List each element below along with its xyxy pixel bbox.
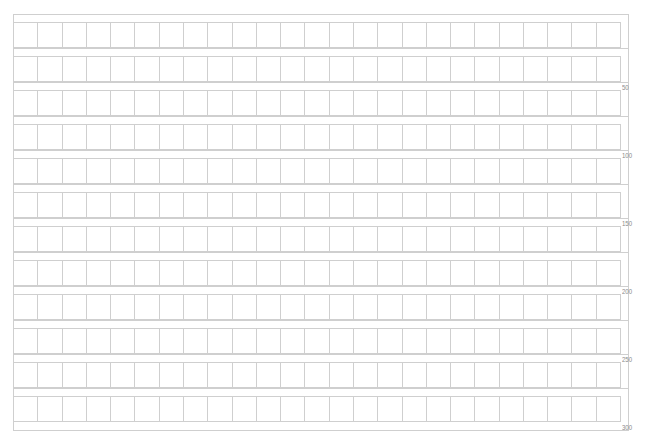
manuscript-cell [403, 227, 427, 251]
manuscript-cell [281, 91, 305, 115]
manuscript-cell [500, 193, 524, 217]
manuscript-cell [13, 227, 38, 251]
manuscript-cell [427, 261, 451, 285]
manuscript-cell [38, 227, 62, 251]
manuscript-cell [13, 295, 38, 319]
manuscript-cell [160, 397, 184, 421]
manuscript-cell [233, 23, 257, 47]
manuscript-cell [63, 227, 87, 251]
manuscript-cell [354, 261, 378, 285]
row-cells [13, 362, 621, 388]
manuscript-cell [281, 23, 305, 47]
manuscript-cell [305, 193, 329, 217]
manuscript-cell [160, 227, 184, 251]
manuscript-cell [257, 363, 281, 387]
manuscript-cell [354, 295, 378, 319]
manuscript-cell [13, 57, 38, 81]
row-gap [13, 116, 629, 124]
manuscript-cell [524, 363, 548, 387]
manuscript-cell [500, 363, 524, 387]
manuscript-cell [427, 23, 451, 47]
manuscript-cell [378, 295, 402, 319]
manuscript-cell [354, 159, 378, 183]
manuscript-cell [403, 193, 427, 217]
manuscript-cell [305, 363, 329, 387]
manuscript-cell [87, 125, 111, 149]
manuscript-cell [572, 193, 596, 217]
manuscript-cell [572, 57, 596, 81]
manuscript-cell [451, 227, 475, 251]
manuscript-cell [184, 193, 208, 217]
manuscript-row [13, 252, 629, 286]
count-label-250: 250 [622, 356, 632, 364]
manuscript-cell [160, 261, 184, 285]
manuscript-cell [378, 125, 402, 149]
manuscript-cell [330, 397, 354, 421]
manuscript-cell [475, 295, 499, 319]
manuscript-cell [524, 397, 548, 421]
manuscript-cell [548, 329, 572, 353]
manuscript-cell [330, 23, 354, 47]
manuscript-cell [572, 23, 596, 47]
manuscript-cell [38, 295, 62, 319]
manuscript-cell [572, 363, 596, 387]
manuscript-cell [233, 193, 257, 217]
manuscript-cell [500, 23, 524, 47]
manuscript-cell [524, 125, 548, 149]
manuscript-cell [38, 57, 62, 81]
manuscript-cell [548, 261, 572, 285]
manuscript-cell [524, 57, 548, 81]
manuscript-cell [572, 397, 596, 421]
manuscript-cell [305, 91, 329, 115]
manuscript-cell [135, 295, 159, 319]
manuscript-cell [475, 193, 499, 217]
manuscript-cell [63, 193, 87, 217]
manuscript-cell [13, 125, 38, 149]
row-cells [13, 22, 621, 48]
row-gap [13, 218, 629, 226]
manuscript-cell [378, 159, 402, 183]
row-gap [13, 388, 629, 396]
manuscript-cell [403, 125, 427, 149]
manuscript-cell [111, 125, 135, 149]
manuscript-cell [572, 91, 596, 115]
manuscript-cell [378, 261, 402, 285]
manuscript-cell [524, 23, 548, 47]
row-gap [13, 252, 629, 260]
manuscript-cell [13, 159, 38, 183]
manuscript-cell [111, 363, 135, 387]
manuscript-cell [257, 125, 281, 149]
manuscript-cell [87, 227, 111, 251]
manuscript-cell [208, 125, 232, 149]
manuscript-cell [451, 91, 475, 115]
manuscript-row [13, 150, 629, 184]
manuscript-cell [524, 227, 548, 251]
count-label-200: 200 [622, 288, 632, 296]
manuscript-cell [305, 125, 329, 149]
manuscript-cell [13, 193, 38, 217]
manuscript-cell [378, 57, 402, 81]
manuscript-cell [111, 57, 135, 81]
manuscript-cell [208, 261, 232, 285]
manuscript-cell [475, 397, 499, 421]
manuscript-cell [281, 363, 305, 387]
manuscript-cell [208, 329, 232, 353]
manuscript-cell [13, 261, 38, 285]
manuscript-cell [572, 159, 596, 183]
manuscript-cell [305, 295, 329, 319]
manuscript-cell [281, 57, 305, 81]
manuscript-cell [160, 91, 184, 115]
manuscript-cell [111, 91, 135, 115]
manuscript-cell [38, 329, 62, 353]
manuscript-cell [160, 329, 184, 353]
manuscript-cell [257, 57, 281, 81]
manuscript-cell [597, 329, 621, 353]
manuscript-row [13, 286, 629, 320]
manuscript-cell [305, 329, 329, 353]
manuscript-cell [305, 397, 329, 421]
manuscript-cell [451, 261, 475, 285]
manuscript-cell [63, 91, 87, 115]
manuscript-cell [281, 227, 305, 251]
manuscript-cell [475, 329, 499, 353]
manuscript-cell [111, 159, 135, 183]
